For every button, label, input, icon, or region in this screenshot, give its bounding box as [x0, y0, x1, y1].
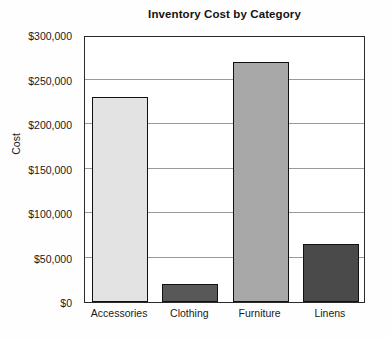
y-tick-label: $200,000 — [0, 119, 78, 131]
x-tick-label-linens: Linens — [295, 307, 365, 319]
plot-area — [84, 36, 365, 303]
bar-accessories[interactable] — [92, 97, 148, 302]
gridline — [85, 79, 364, 80]
bar-chart-figure: Inventory Cost by Category Cost $0$50,00… — [0, 0, 390, 339]
bar-linens[interactable] — [303, 244, 359, 302]
y-tick-label: $50,000 — [0, 253, 78, 265]
y-tick-label: $150,000 — [0, 164, 78, 176]
y-tick-label: $300,000 — [0, 30, 78, 42]
x-tick-label-furniture: Furniture — [225, 307, 295, 319]
y-tick-label: $0 — [0, 297, 78, 309]
x-tick-label-clothing: Clothing — [154, 307, 224, 319]
y-tick-label: $100,000 — [0, 208, 78, 220]
bar-clothing[interactable] — [162, 284, 218, 302]
bar-furniture[interactable] — [233, 62, 289, 302]
x-tick-label-accessories: Accessories — [84, 307, 154, 319]
y-tick-label: $250,000 — [0, 75, 78, 87]
